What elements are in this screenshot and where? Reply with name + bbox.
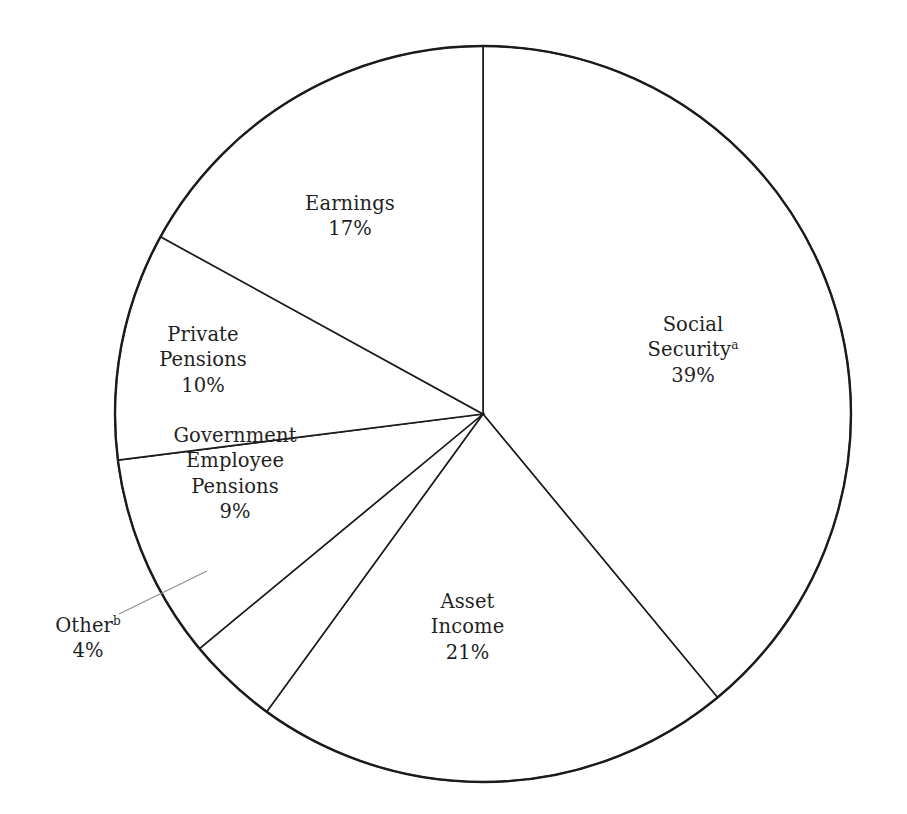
private-pensions-percent: 10% [128, 373, 278, 398]
private-pensions-label-line2: Pensions [128, 347, 278, 372]
asset-income-label-line1: Asset [380, 589, 555, 614]
government-pensions-label-line3: Pensions [125, 474, 345, 499]
social-security-label-line2: Securitya [598, 337, 788, 362]
other-percent: 4% [18, 638, 158, 663]
pie-chart: Earnings 17% Social Securitya 39% Privat… [0, 0, 907, 814]
asset-income-label-line2: Income [380, 614, 555, 639]
pie-slice-group [115, 46, 851, 782]
earnings-label-text: Earnings [270, 191, 430, 216]
slice-label-private-pensions: Private Pensions 10% [128, 322, 278, 398]
private-pensions-label-line1: Private [128, 322, 278, 347]
other-label-line1: Otherb [18, 613, 158, 638]
government-pensions-label-line1: Government [125, 423, 345, 448]
other-label-text: Other [55, 614, 113, 637]
social-security-label-line2-text: Security [648, 338, 732, 361]
slice-label-government-pensions: Government Employee Pensions 9% [125, 423, 345, 524]
slice-label-earnings: Earnings 17% [270, 191, 430, 242]
government-pensions-label-line2: Employee [125, 448, 345, 473]
social-security-footnote-mark: a [731, 338, 738, 352]
social-security-label-line1: Social [598, 312, 788, 337]
slice-label-social-security: Social Securitya 39% [598, 312, 788, 388]
pie-chart-svg [0, 0, 907, 814]
social-security-percent: 39% [598, 363, 788, 388]
slice-label-asset-income: Asset Income 21% [380, 589, 555, 665]
slice-label-other: Otherb 4% [18, 613, 158, 664]
other-footnote-mark: b [113, 614, 121, 628]
government-pensions-percent: 9% [125, 499, 345, 524]
earnings-percent: 17% [270, 216, 430, 241]
asset-income-percent: 21% [380, 640, 555, 665]
